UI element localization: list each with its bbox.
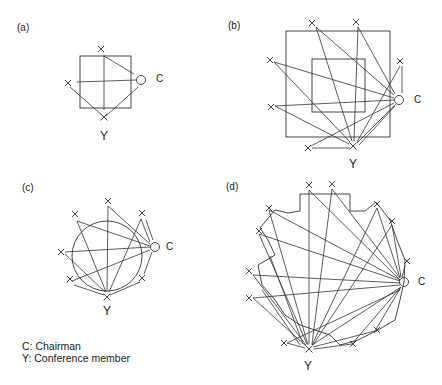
member-y-node-icon: [104, 294, 111, 301]
communication-line: [352, 288, 400, 344]
member-node-icon: [256, 228, 262, 234]
member-y-node-icon: [101, 114, 108, 121]
communication-line: [309, 190, 400, 280]
member-node-icon: [72, 211, 78, 217]
communication-line: [274, 62, 394, 98]
member-node-icon: [105, 198, 111, 204]
member-node-icon: [246, 295, 252, 301]
member-node-icon: [329, 181, 335, 187]
member-node-icon: [98, 46, 104, 52]
communication-line: [77, 221, 106, 292]
panel-a: (a)CY: [17, 22, 163, 143]
member-node-icon: [281, 340, 287, 346]
member-y-label: Y: [304, 359, 312, 373]
legend-conference-member: Y: Conference member: [22, 352, 130, 364]
communication-line: [253, 275, 400, 283]
chairman-label: C: [166, 241, 173, 252]
chairman-node-icon: [137, 76, 146, 85]
chairman-node-icon: [151, 243, 160, 252]
communication-line: [72, 250, 150, 281]
member-y-node-icon: [350, 143, 357, 150]
communication-line: [314, 344, 352, 349]
panel-b: (b)CY: [228, 19, 421, 171]
member-node-icon: [305, 145, 311, 151]
member-node-icon: [374, 201, 380, 207]
communication-line: [65, 254, 105, 292]
member-y-node-icon: [306, 346, 313, 353]
communication-line: [269, 210, 400, 280]
communication-line: [354, 27, 358, 141]
communication-line: [107, 206, 108, 291]
member-node-icon: [67, 276, 73, 282]
communication-line: [253, 298, 306, 346]
communication-line: [110, 282, 140, 295]
member-y-label: Y: [349, 157, 357, 171]
member-node-icon: [309, 20, 315, 26]
panel-label: (d): [226, 181, 238, 192]
legend: C: Chairman Y: Conference member: [22, 340, 130, 364]
member-node-icon: [139, 210, 145, 216]
communication-line: [77, 80, 136, 82]
member-node-icon: [306, 182, 312, 188]
panel-label: (b): [228, 20, 240, 31]
member-node-icon: [65, 80, 71, 86]
communication-line: [259, 234, 307, 344]
communication-line: [316, 27, 394, 95]
communication-line: [70, 87, 103, 116]
chairman-label: C: [156, 73, 163, 84]
member-node-icon: [397, 58, 403, 64]
member-y-label: Y: [100, 129, 108, 143]
communication-line: [312, 208, 377, 345]
member-node-icon: [268, 104, 274, 110]
panel-label: (a): [17, 22, 29, 33]
legend-chairman: C: Chairman: [22, 340, 130, 352]
communication-line: [287, 343, 305, 348]
communication-line: [77, 221, 150, 246]
member-node-icon: [246, 268, 252, 274]
communication-line: [311, 103, 394, 146]
member-y-label: Y: [103, 304, 111, 318]
member-node-icon: [139, 275, 145, 281]
network-diagrams: (a)CY(b)CY(c)CY(d)CY: [0, 0, 442, 385]
communication-line: [275, 100, 394, 106]
member-node-icon: [58, 249, 64, 255]
communication-line: [141, 219, 150, 242]
communication-line: [357, 66, 400, 142]
member-node-icon: [353, 19, 359, 25]
chairman-node-icon: [395, 96, 404, 105]
communication-line: [146, 220, 153, 240]
communication-line: [106, 87, 138, 116]
chairman-label: C: [414, 94, 421, 105]
chairman-label: C: [418, 276, 425, 287]
panel-label: (c): [22, 182, 34, 193]
frame-square: [286, 31, 390, 137]
panel-c: (c)CY: [22, 182, 173, 318]
panel-d: (d)CY: [226, 181, 425, 373]
communication-line: [144, 252, 152, 274]
communication-line: [104, 56, 134, 74]
member-node-icon: [267, 57, 273, 63]
communication-line: [313, 331, 375, 347]
communication-line: [253, 285, 400, 298]
communication-line: [259, 234, 400, 281]
